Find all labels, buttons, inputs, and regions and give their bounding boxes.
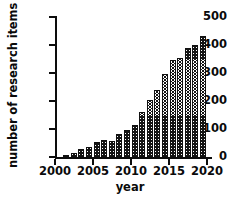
bar	[71, 153, 77, 157]
plot-area	[55, 17, 207, 157]
bar	[132, 125, 138, 157]
bar	[124, 130, 130, 157]
bar	[94, 142, 100, 157]
bar	[63, 155, 69, 157]
bar	[139, 112, 145, 157]
bar	[170, 60, 176, 157]
x-axis-title: year	[55, 180, 205, 194]
x-tick-label: 2015	[149, 165, 189, 178]
x-tick-label: 2000	[35, 165, 75, 178]
bar	[86, 147, 92, 157]
bar	[162, 74, 168, 157]
x-tick-label: 2005	[73, 165, 113, 178]
bar	[192, 45, 198, 157]
bar	[78, 149, 84, 157]
x-tick-label: 2020	[187, 165, 227, 178]
bar	[185, 48, 191, 157]
bar	[147, 100, 153, 157]
bar	[101, 140, 107, 157]
x-tick-label: 2010	[111, 165, 151, 178]
bar	[109, 141, 115, 157]
bar	[200, 36, 206, 157]
bar	[154, 90, 160, 157]
bar	[177, 58, 183, 157]
bar-chart: number of research items year 0100200300…	[0, 0, 227, 203]
y-axis-title: number of research items	[6, 18, 20, 168]
bar	[116, 134, 122, 157]
